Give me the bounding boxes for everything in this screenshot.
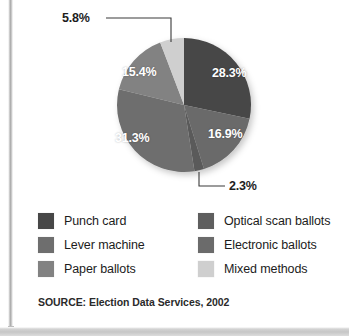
- callout-value-electronic: 2.3%: [229, 179, 257, 193]
- slice-value-lever-machine: 31.3%: [115, 131, 149, 145]
- pie-slices: [117, 38, 251, 172]
- slice-value-paper-ballots: 15.4%: [122, 65, 156, 79]
- legend-item-punch-card[interactable]: Punch card: [38, 209, 198, 233]
- pie-chart: 28.3% 16.9% 31.3% 15.4% 5.8% 2.3%: [14, 0, 349, 200]
- legend-swatch-icon-lever-machine: [38, 237, 54, 253]
- legend-label-punch-card: Punch card: [64, 214, 126, 228]
- source-note: SOURCE: Election Data Services, 2002: [38, 296, 229, 308]
- pie-chart-svg: [14, 0, 349, 200]
- slice-value-punch-card: 28.3%: [212, 66, 246, 80]
- legend-swatch-icon-paper-ballots: [38, 261, 54, 277]
- legend-label-mixed-methods: Mixed methods: [224, 262, 307, 276]
- legend-swatch-icon-punch-card: [38, 213, 54, 229]
- legend-swatch-icon-electronic-ballots: [198, 237, 214, 253]
- legend-swatch-icon-mixed-methods: [198, 261, 214, 277]
- leader-line-electronic: [199, 172, 225, 186]
- legend-swatch-icon-optical-scan-ballots: [198, 213, 214, 229]
- legend-item-optical-scan-ballots[interactable]: Optical scan ballots: [198, 209, 344, 233]
- legend-item-electronic-ballots[interactable]: Electronic ballots: [198, 233, 344, 257]
- leader-line-mixed-methods: [106, 18, 171, 42]
- legend-label-lever-machine: Lever machine: [64, 238, 145, 252]
- callout-value-mixed-methods: 5.8%: [62, 11, 90, 25]
- figure-root: 28.3% 16.9% 31.3% 15.4% 5.8% 2.3% Punch …: [0, 0, 349, 336]
- legend-label-optical-scan-ballots: Optical scan ballots: [224, 214, 330, 228]
- legend-item-lever-machine[interactable]: Lever machine: [38, 233, 198, 257]
- slice-value-optical-scan: 16.9%: [208, 127, 242, 141]
- page-edge-artifact-left: [8, 0, 13, 330]
- legend-item-mixed-methods[interactable]: Mixed methods: [198, 257, 344, 281]
- legend-label-electronic-ballots: Electronic ballots: [224, 238, 317, 252]
- chart-legend: Punch card Optical scan ballots Lever ma…: [38, 209, 344, 281]
- legend-label-paper-ballots: Paper ballots: [64, 262, 136, 276]
- legend-item-paper-ballots[interactable]: Paper ballots: [38, 257, 198, 281]
- page-edge-artifact-bottom: [0, 327, 349, 336]
